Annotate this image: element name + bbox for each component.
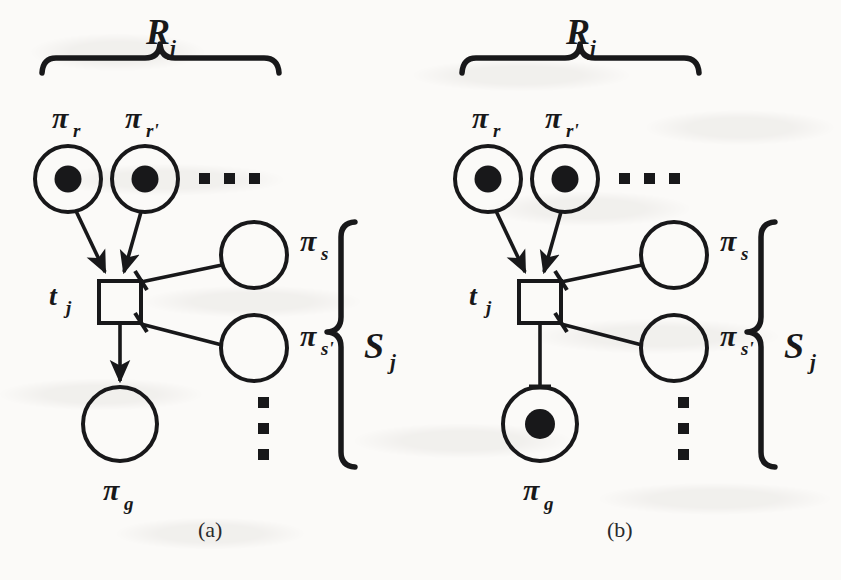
place-label-pi-g-a: π [103,473,120,506]
place-pi-s-b [641,222,707,288]
token-pi-g-b [525,409,555,439]
arc-pi-rp-to-transition-b [544,212,561,272]
service-ellipsis-a [258,397,269,460]
place-label-pi-rp-sub-b: r' [566,120,579,141]
service-brace-label-a: S [364,326,384,366]
panel-a: R j π r π r' t j [35,12,396,542]
arc-pi-r-to-transition-a [76,211,105,272]
place-label-pi-g-b: π [523,473,540,506]
transition-t-a [99,281,141,323]
arc-transition-to-pi-s-b [561,265,642,282]
place-label-pi-s-a: π [300,224,317,257]
place-pi-s-a [221,222,287,288]
petri-net-figure: R j π r π r' t j [0,0,841,580]
transition-t-b [519,281,561,323]
place-label-pi-sp-a: π [300,319,317,352]
arc-transition-to-pi-sp-a [141,324,222,345]
panel-caption-a: (a) [198,517,222,542]
service-ellipsis-b [678,397,689,460]
place-label-pi-g-sub-b: g [543,493,554,514]
resource-brace-label-a: R [145,12,170,52]
place-label-pi-rp-sub-a: r' [146,120,159,141]
panel-caption-b: (b) [607,517,633,542]
place-label-pi-g-sub-a: g [123,493,134,514]
place-label-pi-rp-a: π [125,101,142,134]
place-label-pi-r-sub-a: r [73,120,81,141]
transition-label-t-sub-a: j [63,297,72,318]
place-label-pi-s-b: π [720,224,737,257]
place-label-pi-s-sub-b: s [740,243,748,264]
place-label-pi-r-a: π [52,101,69,134]
place-label-pi-sp-sub-b: s' [740,338,754,359]
place-label-pi-r-b: π [472,101,489,134]
arc-transition-to-pi-sp-b [561,324,642,345]
token-pi-rp-b [552,166,579,193]
transition-label-t-sub-b: j [483,297,492,318]
place-label-pi-s-sub-a: s [320,243,328,264]
resource-ellipsis-a [199,173,260,184]
place-pi-sp-a [221,315,287,381]
transition-label-t-b: t [469,280,478,311]
place-pi-sp-b [641,315,707,381]
token-pi-rp-a [132,166,159,193]
transition-label-t-a: t [49,280,58,311]
figure-container: R j π r π r' t j [0,0,841,580]
token-pi-r-b [475,166,502,193]
arc-pi-rp-to-transition-a [124,212,141,272]
service-brace-label-sub-b: j [807,350,816,374]
service-brace-label-b: S [784,326,804,366]
place-pi-g-a [83,387,157,461]
place-label-pi-r-sub-b: r [493,120,501,141]
token-pi-r-a [55,166,82,193]
arc-transition-to-pi-s-a [141,265,222,282]
place-label-pi-sp-b: π [720,319,737,352]
resource-brace-label-b: R [565,12,590,52]
arc-pi-r-to-transition-b [496,211,525,272]
resource-ellipsis-b [619,173,680,184]
service-brace-label-sub-a: j [387,350,396,374]
panel-b: R j π r π r' t j [455,12,816,542]
place-label-pi-rp-b: π [545,101,562,134]
place-label-pi-sp-sub-a: s' [320,338,334,359]
